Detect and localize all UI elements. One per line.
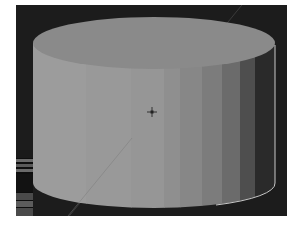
side-panel-bar[interactable] [16, 159, 33, 162]
side-panel-bar[interactable] [16, 150, 33, 158]
viewport-side-panel[interactable] [16, 150, 33, 216]
side-panel-bar[interactable] [16, 193, 33, 200]
side-panel-bar[interactable] [16, 201, 33, 207]
side-panel-bar[interactable] [16, 174, 33, 192]
side-panel-bar[interactable] [16, 164, 33, 167]
viewport-canvas[interactable] [16, 5, 287, 216]
side-panel-bar[interactable] [16, 169, 33, 172]
side-panel-bar[interactable] [16, 208, 33, 216]
cylinder-top-face[interactable] [33, 17, 275, 69]
3d-viewport[interactable] [16, 5, 287, 216]
